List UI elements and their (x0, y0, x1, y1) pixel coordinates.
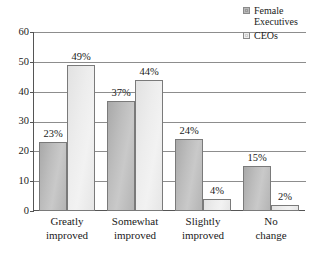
x-axis-category-labels: GreatlyimprovedSomewhatimprovedSlightlyi… (33, 215, 305, 253)
legend-label-line2: Executives (254, 16, 298, 27)
legend-label: CEOs (254, 30, 278, 41)
bar-value-label: 49% (61, 51, 101, 62)
legend-swatch-icon (243, 7, 250, 14)
y-axis-tick-label: 30 (3, 116, 29, 127)
x-axis-category-label-line: Somewhat (101, 215, 169, 229)
y-axis-tick-label: 0 (3, 206, 29, 217)
legend-label-line1: CEOs (254, 30, 278, 41)
legend-item-ceos[interactable]: CEOs (243, 30, 325, 41)
bar-value-label: 4% (197, 185, 237, 196)
bar-chart: 60 50 40 30 20 10 0 23%49%37%44%24%4%15%… (0, 0, 325, 255)
bar (243, 166, 271, 211)
x-axis-category-label-line: improved (33, 229, 101, 243)
x-axis-category-label: Slightlyimproved (169, 215, 237, 242)
bar (39, 142, 67, 211)
x-axis-category-label-line: improved (169, 229, 237, 243)
y-axis-labels: 60 50 40 30 20 10 0 (0, 0, 29, 255)
x-axis-category-label-line: No (237, 215, 305, 229)
x-axis-category-label: Greatlyimproved (33, 215, 101, 242)
bar (203, 199, 231, 211)
y-axis-tick-label: 10 (3, 176, 29, 187)
legend-label-line1: Female (254, 5, 298, 16)
bar-value-label: 15% (237, 152, 277, 163)
y-axis-tick-label: 60 (3, 27, 29, 38)
x-axis-category-label-line: Slightly (169, 215, 237, 229)
legend-item-female-executives[interactable]: Female Executives (243, 5, 325, 27)
bar-value-label: 44% (129, 66, 169, 77)
x-axis-category-label-line: change (237, 229, 305, 243)
bar (135, 80, 163, 211)
bar (107, 101, 135, 211)
bar-value-label: 24% (169, 125, 209, 136)
bars-layer: 23%49%37%44%24%4%15%2% (33, 32, 305, 211)
y-axis-tick (30, 211, 34, 212)
x-axis-category-label-line: improved (101, 229, 169, 243)
bar (271, 205, 299, 211)
x-axis-category-label-line: Greatly (33, 215, 101, 229)
bar (67, 65, 95, 211)
chart-legend: Female Executives CEOs (243, 5, 325, 44)
bar-value-label: 2% (265, 191, 305, 202)
y-axis-tick-label: 20 (3, 146, 29, 157)
y-axis-tick-label: 40 (3, 87, 29, 98)
legend-label: Female Executives (254, 5, 298, 27)
y-axis-tick-label: 50 (3, 57, 29, 68)
x-axis-category-label: Nochange (237, 215, 305, 242)
bar (175, 139, 203, 211)
legend-swatch-icon (243, 32, 250, 39)
x-axis-category-label: Somewhatimproved (101, 215, 169, 242)
